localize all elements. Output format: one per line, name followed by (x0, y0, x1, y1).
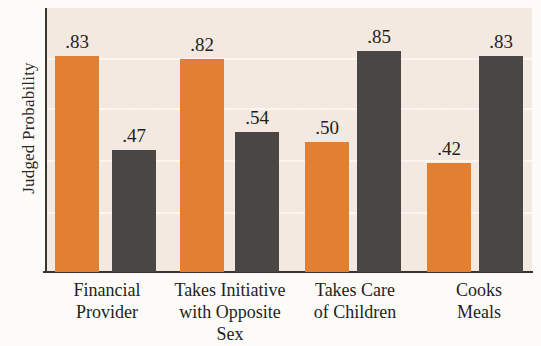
category-label-line: Cooks (424, 279, 534, 301)
bar-value-takes-initiative-gray: .54 (225, 107, 289, 129)
category-label-cooks-meals: CooksMeals (424, 279, 534, 323)
category-label-line: Sex (166, 323, 294, 345)
bar-takes-care-orange (305, 142, 349, 272)
category-label-line: of Children (296, 301, 414, 323)
bar-takes-initiative-orange (180, 59, 224, 272)
bar-value-financial-provider-gray: .47 (102, 125, 166, 147)
bar-cooks-meals-orange (427, 163, 471, 272)
bar-chart: Judged Probability .83.47.82.54.50.85.42… (0, 0, 541, 346)
bar-value-takes-care-gray: .85 (347, 26, 411, 48)
category-label-line: Provider (48, 301, 166, 323)
bar-value-takes-care-orange: .50 (295, 117, 359, 139)
y-axis-title-wrap: Judged Probability (0, 0, 42, 280)
bar-value-cooks-meals-orange: .42 (417, 138, 481, 160)
bar-financial-provider-orange (55, 56, 99, 272)
category-label-line: Takes Initiative (166, 279, 294, 301)
bar-value-takes-initiative-orange: .82 (170, 34, 234, 56)
bar-takes-initiative-gray (235, 132, 279, 272)
y-axis-title: Judged Probability (19, 13, 39, 243)
bar-cooks-meals-gray (479, 56, 523, 272)
category-label-line: Takes Care (296, 279, 414, 301)
gridline-0 (47, 58, 532, 60)
bar-financial-provider-gray (112, 150, 156, 272)
category-label-takes-care: Takes Careof Children (296, 279, 414, 323)
bar-takes-care-gray (357, 51, 401, 272)
category-label-line: Meals (424, 301, 534, 323)
gridline-1 (47, 108, 532, 110)
category-label-takes-initiative: Takes Initiativewith OppositeSex (166, 279, 294, 345)
category-label-line: with Opposite (166, 301, 294, 323)
category-label-line: Financial (48, 279, 166, 301)
bar-value-financial-provider-orange: .83 (45, 31, 109, 53)
bar-value-cooks-meals-gray: .83 (469, 31, 533, 53)
category-label-financial-provider: FinancialProvider (48, 279, 166, 323)
